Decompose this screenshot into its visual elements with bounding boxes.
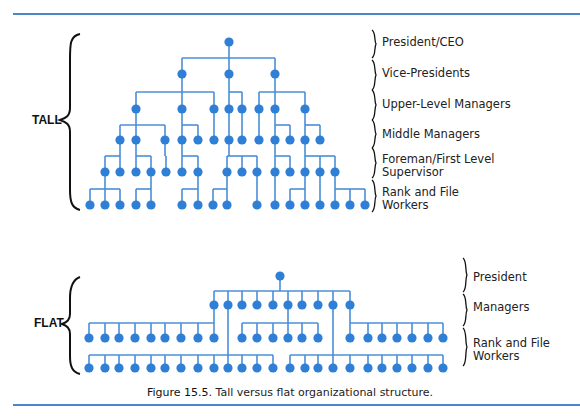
org-node [193,135,202,144]
level-label-vice-presidents: Vice-Presidents [382,67,470,80]
level-brace-icon [463,294,467,326]
org-node [224,37,233,46]
org-node [209,300,218,309]
org-node [328,363,337,372]
level-brace-icon [372,148,376,178]
org-node [130,333,139,342]
org-node [146,363,155,372]
tall-label: TALL [32,113,62,127]
org-node [345,200,354,209]
org-node [177,69,186,78]
org-node [131,135,140,144]
org-node [252,200,261,209]
org-node [193,200,202,209]
org-node [115,167,124,176]
org-node [275,271,284,280]
org-node [423,363,432,372]
org-node [131,200,140,209]
org-node [254,104,263,113]
org-node [224,104,233,113]
org-node [209,135,218,144]
org-node [300,104,309,113]
org-node [283,333,292,342]
level-brace-icon [463,328,467,366]
org-node [193,167,202,176]
org-node [315,135,324,144]
org-node [209,363,218,372]
org-node [252,167,261,176]
org-node [268,333,277,342]
org-node [285,363,294,372]
org-node [270,104,279,113]
org-node [209,333,218,342]
level-brace-icon [372,30,376,58]
org-node [100,200,109,209]
figure-caption: Figure 15.5. Tall versus flat organizati… [0,386,580,399]
org-node [146,200,155,209]
org-node [345,300,354,309]
level-label-managers: Managers [473,301,529,314]
org-node [407,363,416,372]
org-node [285,135,294,144]
org-node [392,333,401,342]
level-label-president: President [473,271,527,284]
org-node [222,200,231,209]
org-node [177,200,186,209]
org-node [160,333,169,342]
org-node [176,363,185,372]
level-label-middle-managers: Middle Managers [382,128,480,141]
org-node [270,167,279,176]
org-node [237,300,246,309]
org-node [377,363,386,372]
flat-label: FLAT [34,316,64,330]
org-node [209,104,218,113]
tall-org-chart [85,37,369,209]
org-node [254,135,263,144]
org-node [363,333,372,342]
org-node [177,167,186,176]
level-label-rank-and-file-flat: Rank and File Workers [473,337,550,363]
org-node [223,300,232,309]
connector-lines [90,42,365,205]
org-node [330,167,339,176]
org-node [377,333,386,342]
level-brace-icon [372,180,376,212]
org-node [177,135,186,144]
org-node [315,167,324,176]
org-node [315,200,324,209]
org-node [114,333,123,342]
org-node [176,333,185,342]
org-node [252,333,261,342]
org-node [100,333,109,342]
org-node [237,167,246,176]
org-node [85,200,94,209]
org-node [237,333,246,342]
org-node [438,363,447,372]
org-node [300,167,309,176]
level-brace-icon [372,60,376,90]
org-node [297,333,306,342]
connector-lines [89,276,443,368]
org-node [423,333,432,342]
org-node [252,300,261,309]
org-node [131,167,140,176]
org-node [193,333,202,342]
org-node [146,333,155,342]
bottom-rule [13,404,580,406]
org-node [297,300,306,309]
org-node [222,167,231,176]
nodes [84,271,447,372]
org-node [283,300,292,309]
tall-brace-icon [60,34,80,210]
org-node [270,200,279,209]
level-label-rank-and-file-tall: Rank and File Workers [382,186,459,212]
level-brace-icon [372,90,376,120]
org-node [115,200,124,209]
org-node [237,363,246,372]
level-label-president-ceo: President/CEO [382,36,464,49]
org-node [392,363,401,372]
org-node [115,135,124,144]
org-node [360,200,369,209]
org-node [300,135,309,144]
org-node [223,363,232,372]
